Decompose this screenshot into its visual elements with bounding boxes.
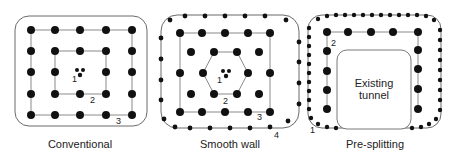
label-3: 3: [257, 112, 262, 122]
hexagon-hole-ring: [203, 52, 248, 94]
panel-pre-splitting: Existing tunnel 1 2: [307, 13, 442, 135]
blast-holes: [27, 26, 136, 119]
label-2: 2: [90, 95, 95, 105]
caption-conventional: Conventional: [10, 138, 150, 150]
label-2: 2: [331, 38, 336, 48]
label-1: 1: [217, 75, 222, 85]
caption-smooth-wall: Smooth wall: [160, 138, 300, 150]
panel-conventional: 1 2 3: [15, 16, 147, 126]
label-3: 3: [116, 116, 121, 126]
inner-hole-ring: [55, 51, 106, 94]
caption-pre-splitting: Pre-splitting: [305, 138, 445, 150]
blasting-pattern-diagram: 1 2 3: [0, 0, 460, 163]
tunnel-label-line1: Existing: [355, 77, 394, 89]
label-1: 1: [72, 74, 77, 84]
tunnel-label-line2: tunnel: [359, 89, 389, 101]
outer-hole-ring: [31, 30, 132, 115]
panel-smooth-wall: 1 2 3 4: [159, 14, 302, 140]
label-2: 2: [223, 96, 228, 106]
label-1: 1: [310, 125, 315, 135]
